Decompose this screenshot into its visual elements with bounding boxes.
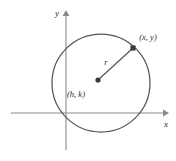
center-point-label: (h, k)	[67, 89, 85, 99]
diagram-canvas: y x r (h, k) (x, y)	[0, 0, 176, 161]
y-axis-label: y	[54, 8, 59, 18]
center-point-marker	[95, 77, 100, 82]
circle-point-label: (x, y)	[139, 32, 157, 42]
x-axis-label: x	[163, 119, 168, 129]
circle-diagram-figure: y x r (h, k) (x, y)	[0, 0, 176, 161]
circle-point-marker	[130, 45, 135, 50]
